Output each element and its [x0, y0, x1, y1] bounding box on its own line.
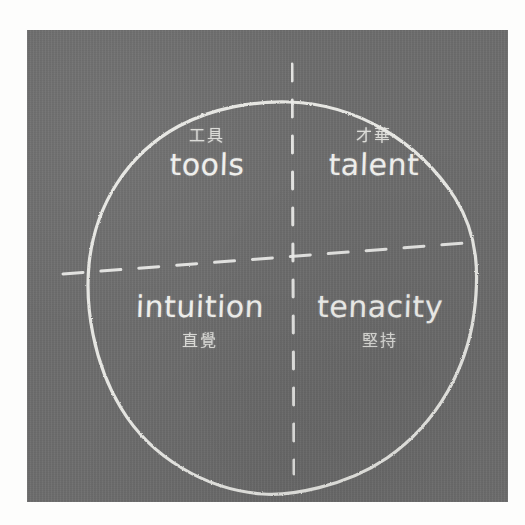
quadrant-chinese-tenacity: 堅持	[285, 331, 475, 351]
chalkboard-panel: 工具 tools 才華 talent intuition 直覺 tenacity…	[27, 30, 508, 502]
quadrant-chinese-tools: 工具	[127, 126, 287, 146]
quadrant-chinese-talent: 才華	[289, 126, 459, 146]
quadrant-label-top-right: 才華 talent	[289, 126, 459, 183]
quadrant-chinese-intuition: 直覺	[105, 331, 295, 351]
horizontal-axis-dashed	[63, 242, 479, 274]
quadrant-label-top-left: 工具 tools	[127, 126, 287, 183]
quadrant-label-bottom-right: tenacity 堅持	[285, 290, 475, 351]
quadrant-english-intuition: intuition	[104, 290, 295, 325]
chalk-drawing-layer	[27, 30, 508, 502]
quadrant-english-talent: talent	[288, 148, 459, 183]
quadrant-label-bottom-left: intuition 直覺	[105, 290, 295, 351]
scene-root: 工具 tools 才華 talent intuition 直覺 tenacity…	[0, 0, 525, 525]
quadrant-english-tenacity: tenacity	[284, 290, 475, 325]
quadrant-english-tools: tools	[126, 148, 287, 183]
